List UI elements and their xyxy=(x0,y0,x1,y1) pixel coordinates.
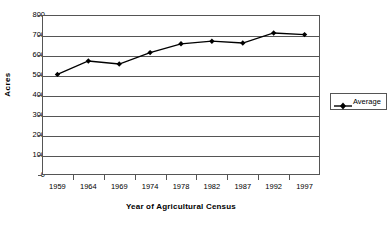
series-average xyxy=(42,15,320,175)
x-tick-mark xyxy=(196,175,197,180)
y-tick-mark xyxy=(38,175,42,176)
x-tick-mark xyxy=(73,175,74,180)
x-tick-mark xyxy=(258,175,259,180)
x-tick-mark xyxy=(135,175,136,180)
data-point-marker xyxy=(271,30,276,35)
legend-label-average: Average xyxy=(352,97,381,106)
x-tick-mark xyxy=(289,175,290,180)
data-point-marker xyxy=(209,39,214,44)
x-tick-mark xyxy=(166,175,167,180)
data-point-marker xyxy=(86,58,91,63)
data-point-marker xyxy=(302,32,307,37)
x-tick-label: 1997 xyxy=(285,182,325,191)
data-point-marker xyxy=(55,72,60,77)
data-point-marker xyxy=(178,41,183,46)
legend: Average xyxy=(330,93,387,110)
x-tick-mark xyxy=(227,175,228,180)
x-axis-title: Year of Agricultural Census xyxy=(42,202,320,211)
series-line xyxy=(57,33,304,74)
x-tick-mark xyxy=(104,175,105,180)
legend-marker-average xyxy=(334,97,352,107)
data-point-marker xyxy=(240,40,245,45)
y-axis-title: Acres xyxy=(3,62,12,108)
data-point-marker xyxy=(147,50,152,55)
data-point-marker xyxy=(117,61,122,66)
line-chart: Acres 0100200300400500600700800 19591964… xyxy=(0,0,391,225)
